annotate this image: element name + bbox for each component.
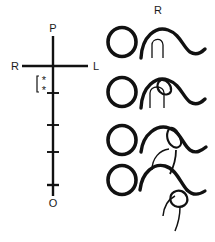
axis-label-posterior: P <box>49 22 56 34</box>
axis-label-left: L <box>93 60 99 72</box>
axis-label-right: R <box>11 60 19 72</box>
panel-label-right: R <box>154 4 162 16</box>
figure-canvas: P R L O * * R <box>0 0 215 242</box>
axis-label-origin: O <box>49 197 58 209</box>
asterisk-marker-lower: * <box>42 84 47 96</box>
